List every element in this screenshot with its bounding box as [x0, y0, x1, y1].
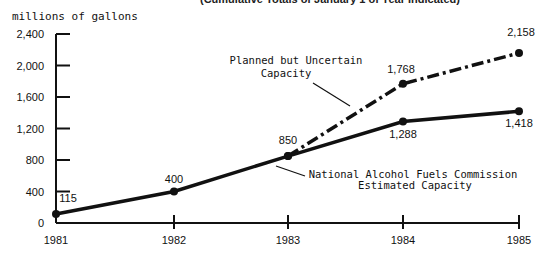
y-tick-label: 2,400 — [16, 28, 44, 40]
data-point-label: 400 — [165, 173, 183, 185]
y-tick-label: 1,200 — [16, 123, 44, 135]
y-tick-label: 2,000 — [16, 60, 44, 72]
annotation-planned-line2: Capacity — [261, 67, 312, 79]
y-tick-label: 1,600 — [16, 91, 44, 103]
x-tick-label: 1983 — [276, 234, 300, 246]
data-point — [284, 152, 292, 160]
data-point-label: 850 — [279, 134, 297, 146]
data-point — [170, 188, 178, 196]
x-tick-label: 1984 — [391, 234, 415, 246]
data-point — [52, 210, 60, 218]
x-tick-label: 1982 — [162, 234, 186, 246]
annotation-nafc-line2: Estimated Capacity — [358, 179, 472, 191]
line-chart: 04008001,2001,6002,0002,400 198119821983… — [0, 0, 546, 259]
data-point-label: 115 — [59, 192, 77, 204]
annotation-planned-line1: Planned but Uncertain — [230, 54, 363, 66]
annotation-leader-nafc — [276, 166, 305, 176]
data-point-label: 1,768 — [387, 63, 415, 75]
y-tick-label: 0 — [38, 217, 44, 229]
x-tick-label: 1981 — [44, 234, 68, 246]
x-tick-label: 1985 — [507, 234, 531, 246]
data-point-label: 2,158 — [507, 26, 535, 38]
annotation-leader-planned — [313, 83, 350, 106]
x-axis-ticks: 19811982198319841985 — [44, 215, 531, 246]
data-point — [515, 107, 523, 115]
data-point — [399, 80, 407, 88]
data-point-label: 1,418 — [505, 117, 533, 129]
y-tick-label: 800 — [26, 154, 44, 166]
series-nafc-estimated-line — [56, 111, 519, 214]
data-point — [515, 49, 523, 57]
data-point-label: 1,288 — [389, 128, 417, 140]
data-point — [399, 118, 407, 126]
y-tick-label: 400 — [26, 186, 44, 198]
